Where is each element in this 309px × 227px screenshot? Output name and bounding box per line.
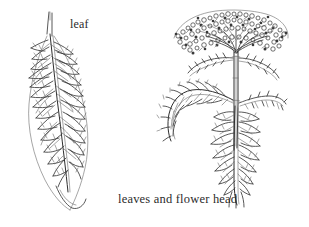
leaves-and-flower-head-label: leaves and flower head [118,192,237,207]
botanical-illustration-figure: leaf leaves and flower head [0,0,309,227]
leaf-label: leaf [70,17,89,32]
